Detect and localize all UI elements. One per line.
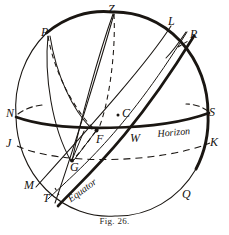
point-label-k: K	[210, 136, 218, 148]
horizon-far-arc-left	[18, 105, 42, 114]
point-label-l: L	[168, 15, 175, 27]
dashed-curve-z-to-f	[98, 14, 114, 130]
horizon-far-arc-right	[186, 104, 208, 111]
dashed-curve-p-to-f	[48, 36, 95, 130]
figure-container: P Z L R N C S J F W K G M T Q Horizon Eq…	[0, 0, 229, 235]
figure-caption: Fig. 26.	[0, 216, 229, 226]
point-label-s: S	[209, 106, 215, 118]
point-label-p: P	[41, 26, 48, 38]
point-label-g: G	[70, 161, 79, 173]
point-label-q: Q	[182, 188, 191, 200]
point-label-t: T	[43, 192, 50, 204]
point-label-c: C	[122, 107, 130, 119]
curve-p-to-g	[47, 36, 71, 161]
point-label-n: N	[6, 107, 14, 119]
curve-p-to-f	[50, 36, 92, 129]
point-label-z: Z	[108, 3, 115, 15]
point-label-f: F	[96, 133, 103, 145]
point-label-j: J	[6, 137, 11, 149]
point-label-w: W	[130, 132, 140, 144]
center-dot-c	[117, 114, 120, 117]
point-label-m: M	[24, 179, 34, 191]
point-label-r: R	[190, 28, 197, 40]
